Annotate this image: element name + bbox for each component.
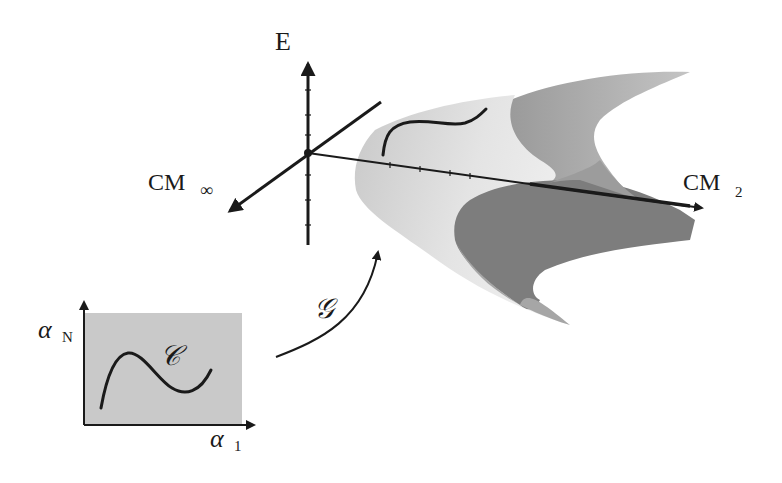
alpha-n-subscript: N xyxy=(62,329,73,345)
cm2-subscript: 2 xyxy=(735,184,743,200)
alpha-n-label: α xyxy=(38,315,53,344)
cm-inf-label: CM xyxy=(148,169,185,195)
cm2-label: CM xyxy=(683,169,720,195)
diagram-canvas: E CM ∞ CM 2 α N α 1 𝒞 𝒢 xyxy=(0,0,782,483)
mapping-label: 𝒢 xyxy=(314,293,338,324)
origin-dot xyxy=(304,149,312,157)
cm-inf-subscript: ∞ xyxy=(200,180,213,200)
alpha-1-label: α xyxy=(210,424,225,453)
alpha-1-subscript: 1 xyxy=(234,438,242,454)
parameter-space: α N α 1 𝒞 xyxy=(38,302,254,454)
energy-axis-label: E xyxy=(275,27,291,56)
